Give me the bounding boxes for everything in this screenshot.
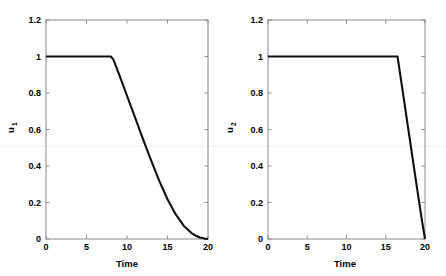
y-tick-label: 1 — [258, 52, 263, 62]
x-tick-labels-right: 05101520 — [265, 242, 430, 252]
y-tick-label: 0.8 — [28, 88, 41, 98]
data-line-u1 — [46, 57, 208, 240]
x-tick-label: 20 — [203, 242, 213, 252]
x-tick-label: 10 — [341, 242, 351, 252]
y-axis-title-sub-left: 1 — [11, 122, 18, 126]
chart-panel-u2: 05101520 00.20.40.60.811.2 Time u 2 — [223, 0, 446, 276]
chart-svg-u2: 05101520 00.20.40.60.811.2 Time u 2 — [223, 0, 446, 276]
y-tick-label: 0.4 — [250, 161, 263, 171]
chart-svg-u1: 05101520 00.20.40.60.811.2 Time u 1 — [0, 0, 223, 276]
x-tick-label: 15 — [381, 242, 391, 252]
plot-frame-left — [46, 20, 208, 239]
y-tick-labels-right: 00.20.40.60.811.2 — [250, 15, 263, 244]
y-tick-label: 0.8 — [250, 88, 263, 98]
y-axis-title-sub-right: 2 — [230, 122, 237, 126]
y-tick-label: 1.2 — [250, 15, 263, 25]
tick-marks-right — [268, 20, 425, 239]
y-tick-label: 1 — [36, 52, 41, 62]
figure-canvas: 05101520 00.20.40.60.811.2 Time u 1 0510… — [0, 0, 446, 276]
y-tick-label: 0.2 — [28, 198, 41, 208]
y-axis-title-right: u 2 — [224, 122, 237, 133]
plot-frame-right — [268, 20, 425, 239]
y-tick-label: 0.6 — [250, 125, 263, 135]
chart-panel-u1: 05101520 00.20.40.60.811.2 Time u 1 — [0, 0, 223, 276]
x-tick-label: 15 — [162, 242, 172, 252]
y-axis-title-base-left: u — [5, 127, 16, 133]
x-axis-title-left: Time — [116, 258, 138, 269]
data-series-u2 — [268, 57, 425, 240]
y-tick-labels-left: 00.20.40.60.811.2 — [28, 15, 41, 244]
data-line-u2 — [268, 57, 425, 240]
y-tick-label: 0 — [36, 234, 41, 244]
x-tick-label: 0 — [43, 242, 48, 252]
x-tick-label: 20 — [420, 242, 430, 252]
y-axis-title-base-right: u — [224, 127, 235, 133]
y-tick-label: 1.2 — [28, 15, 41, 25]
x-tick-label: 5 — [84, 242, 89, 252]
x-tick-label: 0 — [265, 242, 270, 252]
y-tick-label: 0.6 — [28, 125, 41, 135]
data-series-u1 — [46, 57, 208, 240]
y-tick-label: 0 — [258, 234, 263, 244]
y-tick-label: 0.2 — [250, 198, 263, 208]
y-tick-label: 0.4 — [28, 161, 41, 171]
x-tick-label: 10 — [122, 242, 132, 252]
x-tick-labels-left: 05101520 — [43, 242, 213, 252]
x-tick-label: 5 — [305, 242, 310, 252]
tick-marks-left — [46, 20, 208, 239]
y-axis-title-left: u 1 — [5, 122, 18, 133]
x-axis-title-right: Time — [334, 258, 356, 269]
